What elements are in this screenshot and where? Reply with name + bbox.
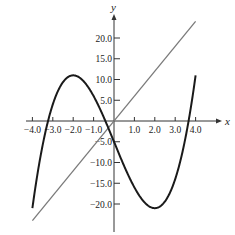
y-tick-label: −15.0 — [90, 179, 112, 189]
y-tick-label: 20.0 — [95, 34, 112, 44]
y-tick-label: −20.0 — [90, 200, 112, 210]
function-plot: −4.0−3.0−2.0−1.01.02.03.04.020.015.010.0… — [0, 0, 235, 235]
x-tick-label: −1.0 — [85, 125, 102, 135]
x-tick-label: −2.0 — [65, 125, 82, 135]
x-axis-arrow-icon — [216, 119, 222, 124]
x-axis-label: x — [224, 115, 230, 127]
y-tick-label: −10.0 — [90, 158, 112, 168]
x-tick-label: 4.0 — [190, 125, 202, 135]
y-tick-label: 15.0 — [95, 54, 112, 64]
axes — [26, 14, 222, 232]
x-tick-label: 3.0 — [169, 125, 181, 135]
x-tick-label: 1.0 — [128, 125, 140, 135]
y-tick-label: 10.0 — [95, 75, 112, 85]
plot-canvas: −4.0−3.0−2.0−1.01.02.03.04.020.015.010.0… — [0, 0, 235, 235]
y-tick-label: 5.0 — [100, 96, 112, 106]
x-tick-label: −4.0 — [24, 125, 41, 135]
x-tick-label: 2.0 — [149, 125, 161, 135]
y-axis-label: y — [110, 1, 116, 13]
y-axis-arrow-icon — [112, 14, 117, 20]
